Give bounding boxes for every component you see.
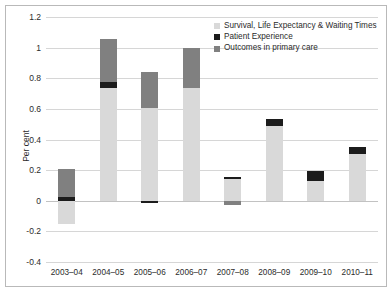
bar-segment[interactable] xyxy=(141,72,158,108)
stacked-bar[interactable] xyxy=(183,17,200,262)
stacked-bar[interactable] xyxy=(100,17,117,262)
bar-group[interactable]: 2005–06 xyxy=(129,17,171,262)
bar-group[interactable]: 2006–07 xyxy=(171,17,213,262)
x-tick-label: 2009–10 xyxy=(300,269,332,277)
bar-group[interactable]: 2009–10 xyxy=(295,17,337,262)
y-tick-label: -0.4 xyxy=(26,258,41,267)
x-tick-label: 2010–11 xyxy=(342,269,373,277)
legend-item[interactable]: Outcomes in primary care xyxy=(214,44,377,52)
bar-segment[interactable] xyxy=(183,88,200,201)
legend-label: Survival, Life Expectancy & Waiting Time… xyxy=(224,22,377,30)
legend-swatch-icon xyxy=(214,46,220,52)
bar-series-container: 2003–042004–052005–062006–072007–082008–… xyxy=(46,17,378,262)
bar-segment[interactable] xyxy=(266,119,283,126)
bar-group[interactable]: 2007–08 xyxy=(212,17,254,262)
bar-group[interactable]: 2003–04 xyxy=(46,17,88,262)
bar-segment[interactable] xyxy=(58,197,75,201)
x-tick-label: 2007–08 xyxy=(217,269,249,277)
stacked-bar[interactable] xyxy=(266,17,283,262)
stacked-bar[interactable] xyxy=(307,17,324,262)
x-tick-label: 2004–05 xyxy=(92,269,124,277)
bar-segment[interactable] xyxy=(266,126,283,201)
y-tick-label: 0.2 xyxy=(29,166,41,175)
chart-legend: Survival, Life Expectancy & Waiting Time… xyxy=(214,22,377,53)
y-tick-label: 1 xyxy=(36,43,41,52)
gridline: -0.4 xyxy=(46,262,378,263)
bar-group[interactable]: 2008–09 xyxy=(254,17,296,262)
bar-segment[interactable] xyxy=(58,169,75,197)
bar-segment[interactable] xyxy=(100,39,117,82)
x-tick-label: 2008–09 xyxy=(258,269,290,277)
bar-segment[interactable] xyxy=(100,82,117,88)
chart-figure: Per cent 1.210.80.60.40.20-0.2-0.4 2003–… xyxy=(0,0,392,292)
legend-label: Outcomes in primary care xyxy=(224,44,318,52)
legend-swatch-icon xyxy=(214,23,220,29)
bar-segment[interactable] xyxy=(183,48,200,89)
bar-segment[interactable] xyxy=(100,88,117,201)
plot-area: 1.210.80.60.40.20-0.2-0.4 2003–042004–05… xyxy=(46,17,378,262)
legend-item[interactable]: Survival, Life Expectancy & Waiting Time… xyxy=(214,22,377,30)
stacked-bar[interactable] xyxy=(224,17,241,262)
stacked-bar[interactable] xyxy=(141,17,158,262)
y-tick-label: 0.6 xyxy=(29,105,41,114)
bar-segment[interactable] xyxy=(349,154,366,201)
y-tick-label: 0.4 xyxy=(29,135,41,144)
x-tick-label: 2003–04 xyxy=(51,269,83,277)
legend-item[interactable]: Patient Experience xyxy=(214,33,377,41)
bar-segment[interactable] xyxy=(58,201,75,224)
stacked-bar[interactable] xyxy=(349,17,366,262)
bar-segment[interactable] xyxy=(307,181,324,201)
x-tick-label: 2006–07 xyxy=(175,269,207,277)
bar-group[interactable]: 2004–05 xyxy=(88,17,130,262)
bar-segment[interactable] xyxy=(307,171,324,181)
bar-segment[interactable] xyxy=(141,201,158,203)
y-tick-label: 0.8 xyxy=(29,74,41,83)
bar-segment[interactable] xyxy=(224,177,241,179)
y-tick-label: 0 xyxy=(36,197,41,206)
legend-swatch-icon xyxy=(214,34,220,40)
bar-segment[interactable] xyxy=(224,201,241,205)
stacked-bar[interactable] xyxy=(58,17,75,262)
y-tick-label: -0.2 xyxy=(26,227,41,236)
y-tick-label: 1.2 xyxy=(29,13,41,22)
bar-segment[interactable] xyxy=(141,108,158,201)
bar-segment[interactable] xyxy=(224,179,241,201)
bar-group[interactable]: 2010–11 xyxy=(337,17,379,262)
bar-segment[interactable] xyxy=(349,147,366,154)
legend-label: Patient Experience xyxy=(224,33,293,41)
x-tick-label: 2005–06 xyxy=(134,269,166,277)
